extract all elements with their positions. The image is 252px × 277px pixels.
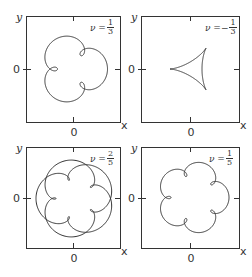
x-axis-label: x xyxy=(240,246,247,257)
plot-svg xyxy=(0,0,252,277)
nu-prefix: ν = xyxy=(209,154,225,164)
y-origin-tick-label: 0 xyxy=(128,193,135,204)
y-axis-label: y xyxy=(131,143,137,154)
x-origin-tick-label: 0 xyxy=(188,253,195,264)
nu-label: ν = 1 5 xyxy=(209,150,233,167)
trajectory-curve xyxy=(161,162,230,232)
nu-denominator: 5 xyxy=(227,159,232,167)
nu-fraction: 1 5 xyxy=(226,150,233,167)
